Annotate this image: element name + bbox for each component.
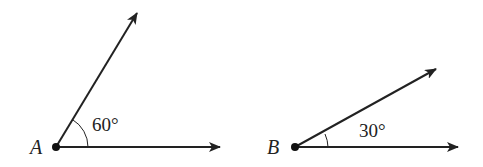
angle-a-arc [73, 120, 89, 147]
angle-b-arc [325, 134, 328, 147]
angle-b-vertex-point [291, 143, 299, 151]
angle-a: A 60° [28, 13, 220, 158]
angle-b-vertex-label: B [267, 136, 279, 158]
angle-a-measure-label: 60° [92, 114, 119, 135]
angle-b-measure-label: 30° [359, 120, 386, 141]
angle-diagram: A 60° B 30° [0, 0, 483, 167]
angle-a-vertex-label: A [28, 136, 43, 158]
angle-b: B 30° [267, 69, 458, 158]
angle-diagram-svg: A 60° B 30° [0, 0, 483, 167]
angle-a-vertex-point [52, 143, 60, 151]
